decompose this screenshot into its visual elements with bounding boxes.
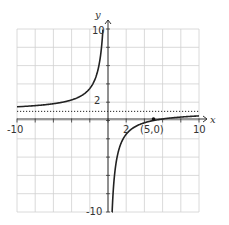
axes [17,20,207,212]
x-min-label: -10 [7,124,23,135]
x-axis-label: x [210,114,216,125]
y-two-label: 2 [94,95,100,106]
x-max-label: 10 [193,124,206,135]
y-axis-label: y [94,9,101,20]
zero-point-marker [152,117,156,121]
graph: y x 10 2 -10 -10 2 10 (5,0) [0,0,229,225]
y-min-label: -10 [86,206,102,217]
point-label: (5,0) [140,124,164,135]
y-max-label: 10 [92,25,105,36]
x-two-label: 2 [123,124,129,135]
